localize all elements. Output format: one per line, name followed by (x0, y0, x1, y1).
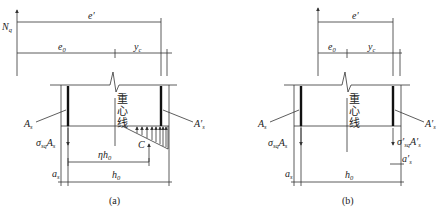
label-e-prime-b: e′ (352, 10, 359, 21)
label-nq: Nq (1, 21, 13, 33)
label-as-dim: as (52, 168, 60, 180)
label-centroid-b-3: 线 (349, 116, 360, 130)
leader-as-b (270, 110, 299, 122)
diagram-canvas: Nq e′ e0 yc 重 心 线 As A′s (0, 0, 439, 213)
label-e0-b: e0 (328, 41, 336, 53)
label-e-prime: e′ (88, 10, 95, 21)
compression-triangle (122, 126, 168, 149)
leader-as (36, 110, 66, 122)
figure-a: Nq e′ e0 yc 重 心 线 As A′s (1, 10, 205, 207)
label-h0-b: h0 (345, 169, 354, 181)
label-as: As (23, 118, 33, 130)
leader-as-prime-b (395, 110, 424, 122)
caption-a: (a) (109, 195, 120, 207)
label-as-dim-b: as (285, 168, 293, 180)
label-c: C (138, 139, 145, 150)
label-sigma-as-b: σsqAs (268, 137, 288, 149)
label-as-prime-b: A′s (424, 118, 436, 130)
figure-b: e′ e0 yc 重 心 线 As A′s σsqAs σ′sqA′s a′s … (257, 8, 436, 207)
label-yc: yc (133, 41, 141, 53)
label-as-b: As (257, 118, 267, 130)
label-as-prime: A′s (193, 118, 205, 130)
label-centroid-1: 重 (117, 92, 128, 106)
leader-as-prime (163, 110, 193, 122)
caption-b: (b) (342, 195, 354, 207)
label-as-prime-dim: a′s (402, 153, 412, 165)
label-eta-h0: ηh0 (98, 149, 112, 161)
label-centroid-b-1: 重 (349, 92, 360, 106)
label-e0: e0 (58, 41, 66, 53)
label-h0: h0 (112, 169, 121, 181)
label-sigma-as: σsqAs (36, 137, 56, 149)
label-yc-b: yc (367, 41, 375, 53)
